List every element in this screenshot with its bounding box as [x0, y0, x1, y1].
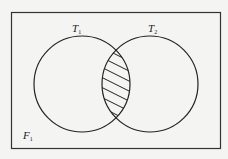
set-t2-label: T2	[148, 22, 157, 35]
universe-rectangle	[12, 13, 221, 149]
set-t2-circle	[102, 36, 198, 132]
set-t1-label: T1	[72, 22, 81, 35]
intersection-hatching	[95, 44, 135, 134]
universe-label: F1	[22, 129, 33, 142]
venn-diagram: T1 T2 F1	[0, 0, 228, 159]
